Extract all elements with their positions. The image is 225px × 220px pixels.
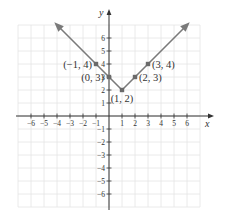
x-tick-label: −3	[66, 119, 74, 128]
data-point-marker	[107, 75, 111, 79]
y-tick-label: 4	[101, 60, 105, 69]
x-axis-label: x	[204, 118, 210, 129]
axes: xy	[16, 7, 211, 210]
x-tick-label: 4	[159, 119, 163, 128]
function-graph: xy −6−5−4−3−2−1123456−6−5−4−3−2−1123456 …	[0, 0, 225, 220]
y-tick-label: 6	[101, 34, 105, 43]
y-tick-label: −6	[97, 190, 105, 199]
data-point-label: (1, 2)	[111, 93, 134, 105]
y-tick-label: −3	[97, 151, 105, 160]
y-tick-label: −2	[97, 138, 105, 147]
y-tick-label: −4	[97, 164, 105, 173]
y-tick-label: 2	[101, 86, 105, 95]
y-tick-label: −5	[97, 177, 105, 186]
y-tick-label: 5	[101, 47, 105, 56]
y-tick-label: −1	[97, 125, 105, 134]
labeled-points: (−1, 4)(0, 3)(1, 2)(2, 3)(3, 4)	[63, 59, 175, 106]
x-tick-label: −5	[40, 119, 48, 128]
x-tick-label: −2	[79, 119, 87, 128]
y-axis-label: y	[98, 7, 104, 18]
data-point-marker	[94, 62, 98, 66]
data-point-marker	[133, 75, 137, 79]
x-tick-label: 2	[133, 119, 137, 128]
x-tick-label: 6	[185, 119, 189, 128]
x-tick-label: 1	[120, 119, 124, 128]
data-point-label: (−1, 4)	[63, 59, 92, 71]
data-point-label: (2, 3)	[139, 72, 162, 84]
x-tick-label: −6	[27, 119, 35, 128]
x-tick-label: −4	[53, 119, 61, 128]
data-point-label: (3, 4)	[152, 59, 175, 71]
data-point-marker	[146, 62, 150, 66]
y-tick-label: 1	[101, 99, 105, 108]
data-point-label: (0, 3)	[81, 72, 104, 84]
x-tick-label: 3	[146, 119, 150, 128]
x-tick-label: 5	[172, 119, 176, 128]
data-point-marker	[120, 88, 124, 92]
